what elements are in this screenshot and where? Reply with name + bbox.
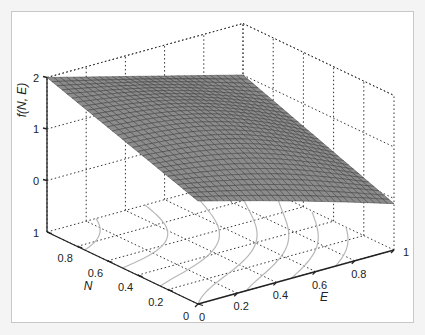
e-tick-label: 0 (199, 311, 205, 323)
n-tick-label: 0.2 (148, 296, 163, 308)
z-tick-label: 2 (33, 72, 39, 84)
n-tick-label: 0.4 (118, 281, 133, 293)
n-tick-label: 0.6 (88, 267, 103, 279)
e-tick-label: 1 (403, 246, 409, 258)
e-tick-label: 0.2 (234, 300, 249, 312)
z-axis-label: f(N, E) (15, 83, 29, 118)
e-tick-label: 0.4 (273, 289, 288, 301)
z-tick-label: 1 (33, 123, 39, 135)
e-tick-label: 0.6 (312, 279, 327, 291)
z-tick-label: 0 (33, 175, 39, 187)
n-tick-label: 0 (183, 310, 189, 322)
surface-mesh (47, 75, 394, 204)
n-axis-label: N (84, 279, 93, 293)
surface-plot: 012100.20.40.60.800.20.40.60.81NEf(N, E) (0, 0, 425, 335)
e-axis-label: E (320, 290, 329, 304)
n-tick-label: 0.8 (58, 252, 73, 264)
e-tick-label: 0.8 (351, 268, 366, 280)
n-tick-label: 1 (33, 227, 39, 239)
